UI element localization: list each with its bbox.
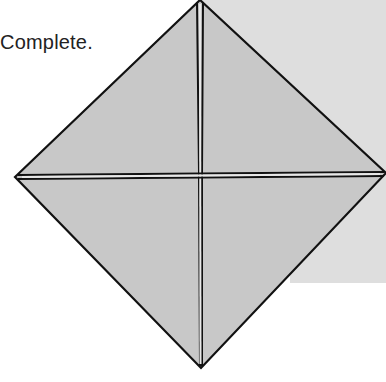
origami-diagram bbox=[0, 0, 386, 382]
caption-text: Complete. bbox=[0, 31, 93, 54]
